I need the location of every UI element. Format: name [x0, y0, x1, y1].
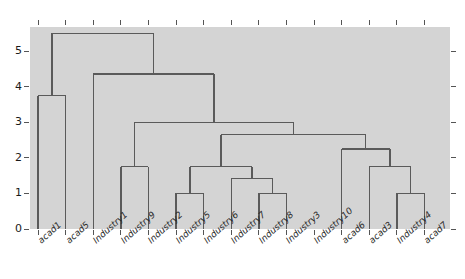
y-tick-label: 4 [4, 80, 22, 93]
y-tick-label: 1 [4, 186, 22, 199]
dendrogram-chart: 012345 acad1acad5Industry1Industry9Indus… [0, 0, 465, 279]
y-tick-label: 0 [4, 222, 22, 235]
y-tick-label: 2 [4, 151, 22, 164]
y-tick-label: 5 [4, 44, 22, 57]
y-tick-label: 3 [4, 115, 22, 128]
